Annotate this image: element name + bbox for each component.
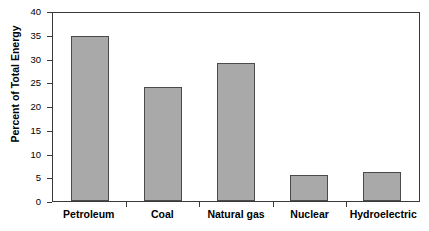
- x-label-nuclear: Nuclear: [273, 208, 347, 220]
- bar-series: [53, 13, 419, 201]
- y-tick-label: 40: [13, 7, 41, 16]
- y-tick-label: 25: [13, 78, 41, 87]
- x-label-natural-gas: Natural gas: [199, 208, 273, 220]
- y-tick-label: 0: [13, 197, 41, 206]
- bar-hydroelectric: [363, 172, 401, 201]
- y-tick-mark: [47, 36, 52, 37]
- y-tick-label: 20: [13, 102, 41, 111]
- y-tick-mark: [47, 83, 52, 84]
- y-tick-mark: [47, 155, 52, 156]
- bar-slot: [273, 13, 346, 201]
- x-tick-mark: [126, 202, 127, 207]
- bar-slot: [199, 13, 272, 201]
- y-tick-label: 30: [13, 55, 41, 64]
- x-tick-mark: [273, 202, 274, 207]
- bar-slot: [53, 13, 126, 201]
- bar-slot: [126, 13, 199, 201]
- x-label-petroleum: Petroleum: [52, 208, 126, 220]
- y-tick-label: 35: [13, 31, 41, 40]
- x-tick-mark: [199, 202, 200, 207]
- x-label-coal: Coal: [126, 208, 200, 220]
- y-tick-mark: [47, 60, 52, 61]
- x-label-hydroelectric: Hydroelectric: [346, 208, 420, 220]
- bar-petroleum: [71, 36, 109, 201]
- y-tick-mark: [47, 131, 52, 132]
- y-tick-mark: [47, 178, 52, 179]
- y-tick-label: 15: [13, 126, 41, 135]
- y-tick-label: 5: [13, 173, 41, 182]
- bar-natural-gas: [217, 63, 255, 201]
- bar-slot: [346, 13, 419, 201]
- y-tick-mark: [47, 202, 52, 203]
- y-tick-label: 10: [13, 150, 41, 159]
- y-tick-mark: [47, 107, 52, 108]
- bar-chart: Percent of Total Energy 0510152025303540…: [0, 0, 429, 231]
- bar-nuclear: [290, 175, 328, 201]
- bar-coal: [144, 87, 182, 201]
- y-tick-mark: [47, 12, 52, 13]
- x-tick-mark: [346, 202, 347, 207]
